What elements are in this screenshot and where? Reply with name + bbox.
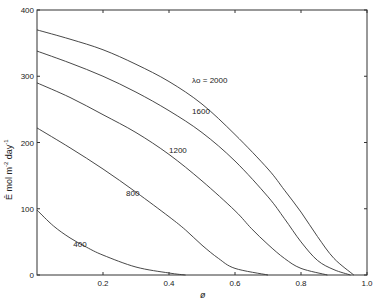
curves	[37, 30, 354, 275]
plot-border	[37, 10, 367, 275]
curve-800	[37, 128, 268, 275]
curve-label: 1200	[169, 146, 187, 155]
plot-frame	[37, 10, 367, 275]
curve-label: 400	[73, 240, 87, 249]
x-tick-label: 0.2	[97, 279, 109, 288]
y-axis-ticks: 0100200300400	[21, 6, 367, 280]
x-tick-label: 0.4	[163, 279, 175, 288]
x-tick-label: 1.0	[361, 279, 373, 288]
curve-400	[37, 210, 186, 275]
y-tick-label: 200	[21, 139, 35, 148]
x-tick-label: 0.6	[229, 279, 241, 288]
y-tick-label: 0	[30, 271, 35, 280]
y-axis-title: Ē mol m-2 day-1	[3, 139, 14, 200]
x-tick-label: 0.8	[295, 279, 307, 288]
y-tick-label: 300	[21, 72, 35, 81]
y-tick-label: 100	[21, 205, 35, 214]
curve-label: 800	[126, 189, 140, 198]
x-axis-ticks: 0.20.40.60.81.0	[97, 10, 373, 288]
x-axis-title: ø	[200, 290, 206, 300]
curve-labels: λo = 200016001200800400	[73, 76, 228, 249]
y-tick-label: 400	[21, 6, 35, 15]
chart: 0100200300400 0.20.40.60.81.0 λo = 20001…	[0, 0, 378, 303]
curve-label: λo = 2000	[192, 76, 228, 85]
curve-label: 1600	[192, 107, 210, 116]
curve-2000	[37, 30, 354, 275]
